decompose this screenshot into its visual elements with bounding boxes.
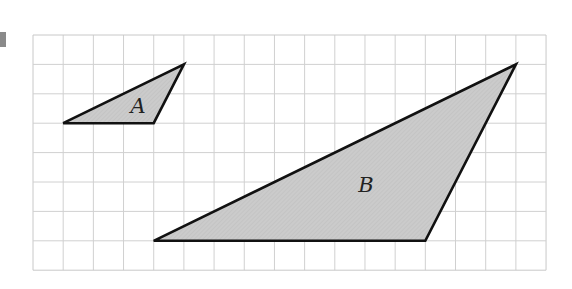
triangle-b-label: B [357, 173, 373, 197]
triangle-a-label: A [128, 94, 145, 118]
grid-figure: A B [0, 0, 572, 289]
